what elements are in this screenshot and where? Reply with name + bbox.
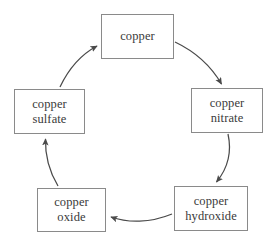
node-copper-hydroxide-label-line-1: copper [194, 194, 229, 209]
node-copper-hydroxide-label-line-2: hydroxide [185, 209, 237, 224]
node-copper-sulfate-label-line-1: copper [32, 97, 67, 112]
node-copper-nitrate-label-line-1: copper [210, 96, 245, 111]
node-copper-oxide-label-line-2: oxide [57, 210, 85, 225]
node-copper-label-line-1: copper [120, 29, 155, 44]
node-copper-oxide: copper oxide [37, 188, 106, 232]
arrow-copper-to-copper-nitrate [175, 42, 222, 84]
arrow-copper-hydroxide-to-copper-oxide [111, 214, 172, 221]
arrow-copper-nitrate-to-copper-hydroxide [217, 134, 230, 182]
node-copper: copper [101, 14, 174, 59]
arrow-copper-sulfate-to-copper [60, 46, 97, 87]
node-copper-sulfate-label-line-2: sulfate [32, 112, 66, 127]
node-copper-nitrate-label-line-2: nitrate [211, 111, 244, 126]
node-copper-hydroxide: copper hydroxide [174, 186, 248, 231]
copper-cycle-diagram: copper copper nitrate copper hydroxide c… [0, 0, 274, 247]
node-copper-sulfate: copper sulfate [14, 89, 85, 134]
arrow-copper-oxide-to-copper-sulfate [45, 139, 58, 186]
node-copper-nitrate: copper nitrate [191, 88, 263, 133]
node-copper-oxide-label-line-1: copper [54, 195, 89, 210]
